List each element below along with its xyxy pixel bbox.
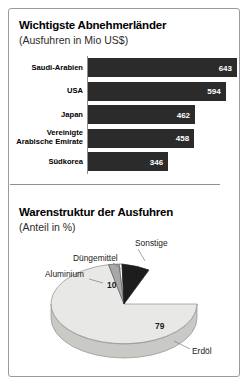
bar-chart-subtitle: (Ausfuhren in Mio US$) [19,34,128,46]
bar-category-label: USA [11,87,83,96]
bar-chart-plot: Saudi-Arabien643USA594Japan462Vereinigte… [9,56,239,174]
bar-category-label: Südkorea [11,157,83,166]
bar-category-label: Vereinigte Arabische Emirate [11,129,83,146]
pie-chart-plot: Sonstige Düngemittel Aluminium Erdöl 9 2… [9,236,239,376]
leader-line-sonstige [138,249,145,261]
pie-label-aluminium: Aluminium [45,269,84,279]
bar-value-label: 346 [150,157,163,166]
pie-label-erdoel: Erdöl [192,346,212,356]
infographic-page: Wichtigste Abnehmerländer (Ausfuhren in … [0,0,250,387]
bar-value-label: 462 [177,110,190,119]
pie-value-duengemittel: 2 [134,272,138,279]
bar: 643 [88,58,237,77]
pie-label-duengemittel: Düngemittel [73,253,118,263]
bar-row: USA594 [9,80,239,103]
pie-label-sonstige: Sonstige [135,238,168,248]
bar-row: Vereinigte Arabische Emirate458 [9,127,239,150]
pie-chart-panel: Warenstruktur der Ausfuhren (Anteil in %… [9,194,239,377]
bar-value-label: 594 [207,87,220,96]
bar-row: Japan462 [9,103,239,126]
pie-chart-subtitle: (Anteil in %) [19,221,76,233]
pie-value-sonstige: 9 [149,267,154,277]
bar-row: Südkorea346 [9,150,239,173]
pie-chart-title: Warenstruktur der Ausfuhren [19,206,173,218]
bar: 346 [88,152,168,171]
pie-value-aluminium: 10 [107,280,116,290]
bar-category-label: Japan [11,110,83,119]
bar-value-label: 458 [176,134,189,143]
bar-chart-panel: Wichtigste Abnehmerländer (Ausfuhren in … [9,9,239,194]
bar: 594 [88,82,226,101]
bar: 462 [88,105,195,124]
section-divider [10,184,220,185]
pie-slice-sonstige [122,264,149,304]
bar-value-label: 643 [219,63,232,72]
bar-chart-title: Wichtigste Abnehmerländer [19,19,166,31]
pie-value-erdoel: 79 [155,321,164,331]
bar: 458 [88,129,194,148]
bar-row: Saudi-Arabien643 [9,56,239,79]
bar-category-label: Saudi-Arabien [11,63,83,72]
